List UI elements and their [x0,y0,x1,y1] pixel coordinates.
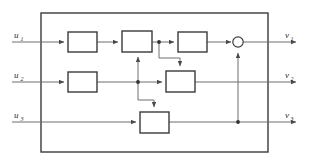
junction-row3-tap [236,120,240,124]
wire-cross-row1-to-row2 [159,42,180,66]
input-label-u3: u [14,110,19,120]
block-r1-c2 [122,31,152,52]
input-label-u1-subscript: 1 [21,36,24,42]
block-r2-c2 [166,71,195,92]
junction-row2-tap [136,80,140,84]
input-label-u3-subscript: 3 [20,116,24,122]
output-label-v2: v [285,70,289,80]
input-label-u2: u [14,70,19,80]
block-r1-c3 [178,32,207,52]
input-label-u1: u [14,30,19,40]
block-r3-c1 [140,112,169,133]
wire-cross-row2-to-row3 [138,82,154,107]
block-diagram-figure: u 1 u 2 u 3 v 1 v 2 v 3 [0,0,310,164]
junction-row1-tap [157,40,161,44]
output-label-v1: v [285,30,289,40]
output-label-v3: v [285,110,289,120]
output-label-v1-subscript: 1 [291,36,294,42]
block-r1-c1 [68,32,97,52]
diagram-canvas: u 1 u 2 u 3 v 1 v 2 v 3 [0,0,310,164]
summing-junction-node [233,37,243,47]
output-label-v2-subscript: 2 [291,76,294,82]
block-r2-c1 [68,72,97,92]
input-label-u2-subscript: 2 [21,76,24,82]
output-label-v3-subscript: 3 [290,116,294,122]
